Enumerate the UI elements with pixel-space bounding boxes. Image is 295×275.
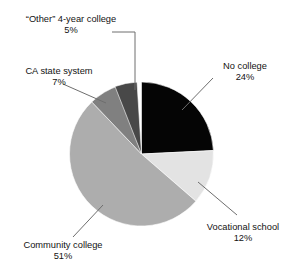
- callout-community-college: Community college 51%: [9, 240, 117, 263]
- callout-no-college-percent: 24%: [205, 72, 285, 83]
- callout-ca-state-system-percent: 7%: [4, 77, 114, 88]
- callout-vocational-school-name: Vocational school: [207, 222, 279, 232]
- callout-no-college: No college 24%: [205, 61, 285, 84]
- callout-other-four-year-college-name: “Other” 4-year college: [26, 14, 116, 24]
- callout-ca-state-system-name: CA state system: [25, 66, 92, 76]
- callout-vocational-school-percent: 12%: [194, 233, 292, 244]
- figure-caption: [12, 265, 264, 275]
- callout-other-four-year-college-percent: 5%: [8, 25, 134, 36]
- callout-community-college-percent: 51%: [9, 251, 117, 262]
- leader-line-community-college: [73, 205, 103, 237]
- callout-community-college-name: Community college: [23, 240, 102, 250]
- pie-chart-figure: “Other” 4-year college 5% CA state syste…: [0, 0, 295, 275]
- callout-no-college-name: No college: [223, 61, 267, 71]
- pie-slices: [70, 82, 214, 226]
- callout-other-four-year-college: “Other” 4-year college 5%: [8, 14, 134, 37]
- leader-line-other-four-year-college: [112, 32, 135, 90]
- pie-slice-no-college[interactable]: [142, 82, 214, 154]
- callout-ca-state-system: CA state system 7%: [4, 66, 114, 89]
- leader-line-vocational-school: [198, 182, 237, 215]
- callout-vocational-school: Vocational school 12%: [194, 222, 292, 245]
